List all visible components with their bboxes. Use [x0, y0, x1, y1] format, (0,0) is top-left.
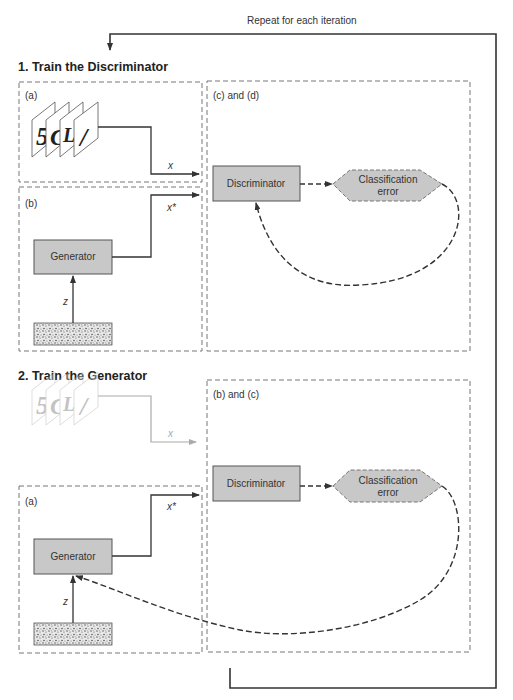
discriminator-label-2: Discriminator	[227, 478, 286, 489]
fake-data-arrow-1	[112, 195, 199, 257]
error-line1-2: Classification	[359, 475, 418, 486]
noise-input-1	[34, 323, 112, 345]
svg-text:L: L	[62, 124, 75, 146]
x-star-var-2: x*	[166, 501, 177, 512]
z-var-2: z	[62, 596, 68, 607]
x-star-var-1: x*	[166, 202, 177, 213]
panel-2bc-label: (b) and (c)	[213, 389, 259, 400]
panel-1cd-label: (c) and (d)	[213, 90, 259, 101]
gan-training-diagram: Repeat for each iteration 1. Train the D…	[0, 0, 513, 700]
discriminator-label-1: Discriminator	[227, 178, 286, 189]
real-data-arrow	[98, 127, 199, 174]
mnist-digit-stack: 5 C L /	[32, 102, 98, 157]
panel-1a-label: (a)	[25, 90, 37, 101]
z-var-1: z	[62, 296, 68, 307]
error-line2-2: error	[377, 487, 399, 498]
loop-label: Repeat for each iteration	[247, 15, 357, 26]
generator-label-1: Generator	[50, 251, 96, 262]
error-line1-1: Classification	[359, 174, 418, 185]
fake-data-arrow-2	[112, 495, 199, 556]
error-line2-1: error	[377, 186, 399, 197]
panel-2a-label: (a)	[25, 496, 37, 507]
repeat-loop-arrow	[110, 34, 496, 688]
generator-label-2: Generator	[50, 551, 96, 562]
real-data-arrow-ghost	[98, 396, 196, 442]
section1-title: 1. Train the Discriminator	[18, 60, 168, 74]
panel-2bc	[207, 380, 470, 652]
panel-1b-label: (b)	[25, 198, 37, 209]
backprop-arrow-2	[76, 486, 459, 634]
x-var-ghost: x	[167, 428, 174, 439]
panel-1cd	[207, 81, 470, 351]
svg-text:L: L	[62, 393, 75, 415]
noise-input-2	[34, 623, 112, 645]
x-var: x	[167, 160, 174, 171]
